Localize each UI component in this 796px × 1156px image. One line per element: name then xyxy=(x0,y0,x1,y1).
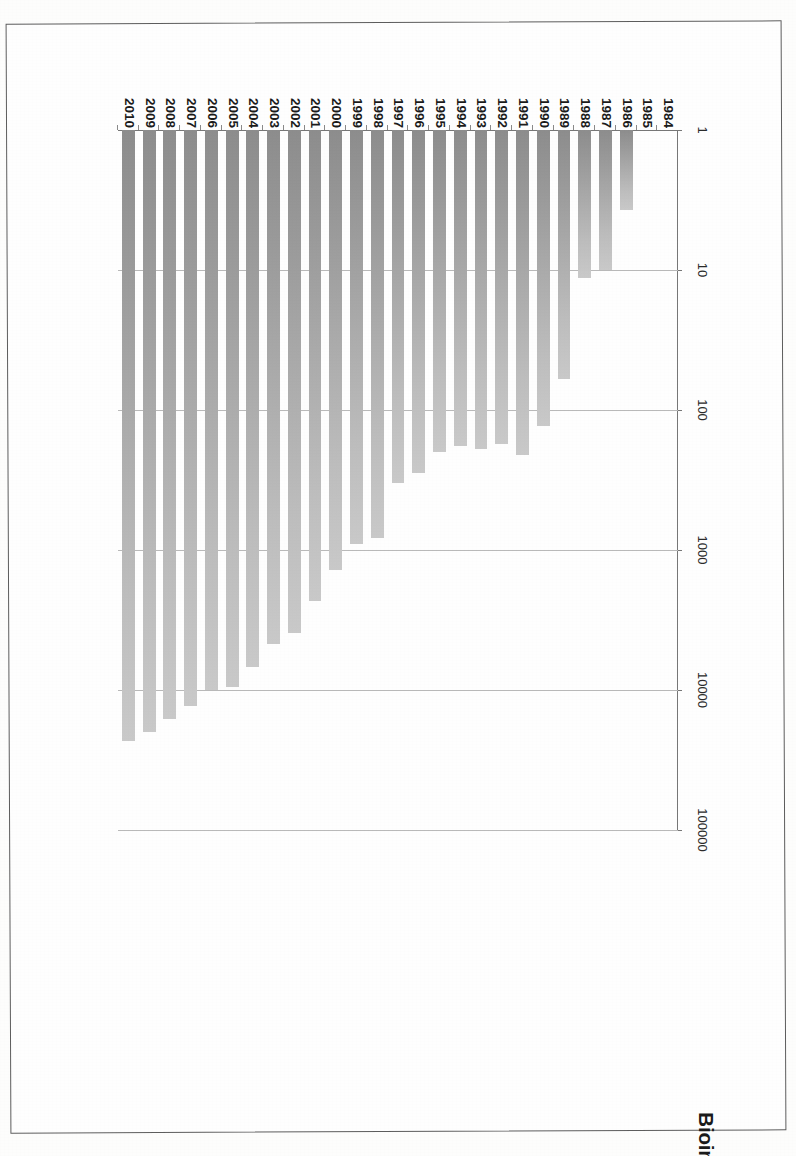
category-axis-tickmark xyxy=(200,125,201,130)
category-axis-tickmark xyxy=(470,125,471,130)
bar-row: 2004 xyxy=(246,130,259,830)
bar xyxy=(537,130,550,426)
category-label: 2000 xyxy=(329,72,342,128)
bar-row: 2001 xyxy=(309,130,322,830)
category-axis-tickmark xyxy=(138,125,139,130)
bar xyxy=(516,130,529,455)
category-label: 1992 xyxy=(495,72,508,128)
bar-row: 2008 xyxy=(163,130,176,830)
value-axis-tickmark xyxy=(677,130,682,131)
category-axis-tickmark xyxy=(221,125,222,130)
gridline xyxy=(118,830,678,831)
category-axis-tickmark xyxy=(262,125,263,130)
bar-row: 1988 xyxy=(578,130,591,830)
bar xyxy=(309,130,322,601)
value-axis-tick-label: 100 xyxy=(695,399,710,421)
rotated-chart-wrapper: Bioinformatics publications (logarithmic… xyxy=(0,0,796,1156)
category-label: 1999 xyxy=(350,72,363,128)
bar xyxy=(350,130,363,544)
value-axis-tick-label: 10 xyxy=(695,263,710,277)
bar xyxy=(412,130,425,473)
bar-row: 1984 xyxy=(661,130,674,830)
category-axis-tickmark xyxy=(283,125,284,130)
bar xyxy=(392,130,405,483)
chart: Bioinformatics publications (logarithmic… xyxy=(78,68,718,1088)
category-axis-tickmark xyxy=(345,125,346,130)
category-label: 1989 xyxy=(558,72,571,128)
bar xyxy=(433,130,446,452)
bar-row: 1999 xyxy=(350,130,363,830)
bar xyxy=(620,130,633,210)
value-axis-tick-label: 10000 xyxy=(695,672,710,708)
category-label: 2006 xyxy=(205,72,218,128)
category-label: 1984 xyxy=(661,72,674,128)
category-axis-tickmark xyxy=(449,125,450,130)
bar-row: 1995 xyxy=(433,130,446,830)
category-label: 1990 xyxy=(537,72,550,128)
chart-title-slot: Bioinformatics publications (logarithmic… xyxy=(678,1020,718,1156)
bar-row: 2000 xyxy=(329,130,342,830)
category-axis-tickmark xyxy=(366,125,367,130)
category-axis-tickmark xyxy=(179,125,180,130)
bar-row: 2005 xyxy=(226,130,239,830)
bar xyxy=(267,130,280,644)
bar-row: 1992 xyxy=(495,130,508,830)
category-label: 1994 xyxy=(454,72,467,128)
bar xyxy=(205,130,218,690)
category-axis-tickmark xyxy=(532,125,533,130)
category-axis-tickmark xyxy=(490,125,491,130)
category-label: 2009 xyxy=(143,72,156,128)
category-label: 2008 xyxy=(163,72,176,128)
bar xyxy=(495,130,508,444)
category-axis-tickmark xyxy=(615,125,616,130)
category-label: 2005 xyxy=(226,72,239,128)
value-axis-tick-label: 100000 xyxy=(695,808,710,851)
category-axis-tickmark xyxy=(656,125,657,130)
bar-row: 1990 xyxy=(537,130,550,830)
category-label: 1996 xyxy=(412,72,425,128)
bar xyxy=(558,130,571,379)
plot-area: 1984198519861987198819891990199119921993… xyxy=(118,130,678,830)
bar xyxy=(475,130,488,449)
category-axis-tickmark xyxy=(553,125,554,130)
category-label: 1998 xyxy=(371,72,384,128)
category-axis-tickmark xyxy=(573,125,574,130)
category-axis-tickmark xyxy=(158,125,159,130)
category-label: 1991 xyxy=(516,72,529,128)
category-label: 1986 xyxy=(620,72,633,128)
bar-row: 1986 xyxy=(620,130,633,830)
bar-row: 2006 xyxy=(205,130,218,830)
category-axis-tickmark xyxy=(511,125,512,130)
value-axis-tick-label: 1000 xyxy=(695,536,710,565)
bar xyxy=(184,130,197,706)
category-axis-tickmark xyxy=(387,125,388,130)
category-label: 1987 xyxy=(599,72,612,128)
bar xyxy=(578,130,591,278)
category-axis-tickmark xyxy=(428,125,429,130)
value-axis-labels: 110100100010000100000 xyxy=(680,130,710,830)
category-axis-tickmark xyxy=(324,125,325,130)
scanned-page: Bioinformatics publications (logarithmic… xyxy=(0,0,796,1156)
value-axis-tick-label: 1 xyxy=(695,126,710,133)
category-label: 2001 xyxy=(309,72,322,128)
bar xyxy=(371,130,384,538)
bar-row: 1994 xyxy=(454,130,467,830)
bar-row: 2010 xyxy=(122,130,135,830)
bar xyxy=(163,130,176,719)
bar xyxy=(122,130,135,741)
bar-row: 2002 xyxy=(288,130,301,830)
bar xyxy=(246,130,259,667)
category-axis-tickmark xyxy=(241,125,242,130)
bar-row: 1987 xyxy=(599,130,612,830)
bar xyxy=(143,130,156,732)
category-axis-tickmark xyxy=(636,125,637,130)
bar xyxy=(454,130,467,446)
category-label: 1988 xyxy=(578,72,591,128)
bar-row: 2003 xyxy=(267,130,280,830)
category-label: 2003 xyxy=(267,72,280,128)
category-label: 2010 xyxy=(122,72,135,128)
chart-title: Bioinformatics publications (logarithmic… xyxy=(694,1016,718,1156)
category-label: 2002 xyxy=(288,72,301,128)
bar-row: 1998 xyxy=(371,130,384,830)
category-label: 1985 xyxy=(640,72,653,128)
